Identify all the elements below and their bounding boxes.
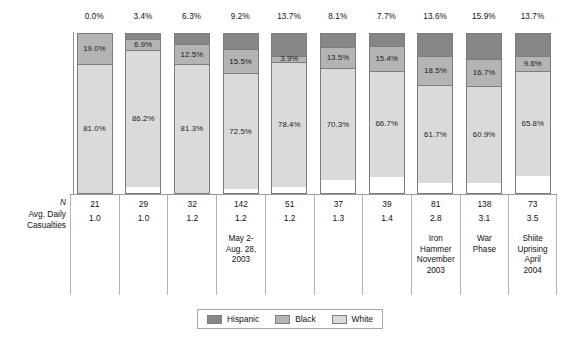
table-column: 1383.1WarPhase <box>460 195 509 295</box>
segment-value-label: 65.8% <box>521 120 544 128</box>
table-cell-n: 142 <box>217 195 265 210</box>
segment-value-label: 81.3% <box>181 125 204 133</box>
stacked-bar[interactable]: 18.5%61.7% <box>417 33 453 194</box>
table-cell-avg-daily-casualties: 2.8 <box>412 210 460 224</box>
legend-label: Hispanic <box>227 314 259 324</box>
legend-label: White <box>352 314 373 324</box>
segment-hispanic <box>467 34 501 59</box>
hispanic-top-label: 3.4% <box>119 12 168 21</box>
bar-column: 9.2%15.5%72.5% <box>216 10 265 195</box>
segment-black: 6.9% <box>126 39 160 50</box>
bar-column: 3.4%6.9%86.2% <box>119 10 168 195</box>
stacked-bar[interactable]: 9.6%65.8% <box>515 33 551 194</box>
segment-black: 18.5% <box>418 56 452 85</box>
table-columns: 211.0291.0321.21421.2May 2-Aug. 28,20035… <box>70 194 557 294</box>
table-cell-annotation: May 2-Aug. 28,2003 <box>217 224 265 266</box>
legend-label: Black <box>295 314 315 324</box>
table-cell-avg-daily-casualties: 3.5 <box>509 210 556 224</box>
annotation-line: Hammer <box>414 245 458 256</box>
segment-white: 61.7% <box>418 85 452 183</box>
annotation-line: Aug. 28, <box>219 245 263 256</box>
table-cell-n: 81 <box>412 195 460 210</box>
legend-item-white[interactable]: White <box>332 314 373 324</box>
hispanic-top-label: 9.2% <box>216 12 265 21</box>
hispanic-top-label: 8.1% <box>314 12 363 21</box>
legend-swatch-icon <box>332 315 347 324</box>
stacked-bar[interactable]: 3.9%78.4% <box>271 33 307 194</box>
table-column: 371.3 <box>314 195 363 295</box>
stacked-bar[interactable]: 15.4%66.7% <box>369 33 405 194</box>
table-column: 733.5ShiiteUprisingApril2004 <box>508 195 557 295</box>
table-column: 511.2 <box>265 195 314 295</box>
bar-column: 15.9%16.7%60.9% <box>460 10 509 195</box>
segment-value-label: 15.4% <box>375 55 398 63</box>
table-column: 291.0 <box>119 195 168 295</box>
hispanic-top-label: 0.0% <box>70 12 119 21</box>
hispanic-top-label: 13.6% <box>411 12 460 21</box>
table-cell-annotation: ShiiteUprisingApril2004 <box>509 224 556 276</box>
bar-column: 13.7%9.6%65.8% <box>508 10 557 195</box>
segment-hispanic <box>370 34 404 46</box>
segment-value-label: 66.7% <box>375 120 398 128</box>
table-cell-avg-daily-casualties: 1.4 <box>363 210 411 224</box>
table-column: 391.4 <box>362 195 411 295</box>
annotation-line: War <box>463 234 507 245</box>
table-cell-avg-daily-casualties: 1.0 <box>71 210 119 224</box>
segment-white: 60.9% <box>467 86 501 183</box>
segment-value-label: 81.0% <box>83 125 106 133</box>
segment-value-label: 60.9% <box>473 131 496 139</box>
annotation-line: 2003 <box>219 255 263 266</box>
segment-black: 12.5% <box>175 44 209 64</box>
data-table: N Avg. Daily Casualties 211.0291.0321.21… <box>0 194 557 294</box>
bar-column: 8.1%13.5%70.3% <box>314 10 363 195</box>
plot-area: 0.0%19.0%81.0%3.4%6.9%86.2%6.3%12.5%81.3… <box>70 10 557 195</box>
stacked-bar[interactable]: 13.5%70.3% <box>320 33 356 194</box>
segment-value-label: 9.6% <box>524 60 542 68</box>
hispanic-top-label: 15.9% <box>460 12 509 21</box>
annotation-line: May 2- <box>219 234 263 245</box>
table-cell-n: 73 <box>509 195 556 210</box>
stacked-bar[interactable]: 15.5%72.5% <box>223 33 259 194</box>
hispanic-top-label: 13.7% <box>265 12 314 21</box>
segment-white: 65.8% <box>516 71 550 176</box>
table-cell-avg-daily-casualties: 1.0 <box>120 210 168 224</box>
table-column: 812.8IronHammerNovember2003 <box>411 195 460 295</box>
table-row-labels: N Avg. Daily Casualties <box>0 194 66 232</box>
annotation-line: Iron <box>414 234 458 245</box>
table-cell-annotation: IronHammerNovember2003 <box>412 224 460 276</box>
segment-black: 15.4% <box>370 46 404 70</box>
row-label-avg-line2: Casualties <box>0 220 66 232</box>
annotation-line: 2003 <box>414 266 458 277</box>
segment-value-label: 13.5% <box>327 54 350 62</box>
segment-black: 13.5% <box>321 47 355 68</box>
legend-swatch-icon <box>275 315 290 324</box>
segment-white: 86.2% <box>126 50 160 187</box>
hispanic-top-label: 6.3% <box>167 12 216 21</box>
legend-item-hispanic[interactable]: Hispanic <box>207 314 259 324</box>
annotation-line: November <box>414 255 458 266</box>
annotation-line: Uprising <box>511 245 554 256</box>
table-cell-avg-daily-casualties: 1.3 <box>315 210 363 224</box>
row-label-avg-line1: Avg. Daily <box>0 209 66 221</box>
table-column: 1421.2May 2-Aug. 28,2003 <box>216 195 265 295</box>
row-label-n: N <box>0 194 66 209</box>
stacked-bar[interactable]: 19.0%81.0% <box>77 33 113 194</box>
segment-white: 70.3% <box>321 68 355 180</box>
segment-value-label: 70.3% <box>327 121 350 129</box>
table-column: 211.0 <box>70 195 119 295</box>
table-cell-n: 39 <box>363 195 411 210</box>
table-cell-avg-daily-casualties: 1.2 <box>168 210 216 224</box>
segment-value-label: 86.2% <box>132 115 155 123</box>
table-cell-n: 37 <box>315 195 363 210</box>
stacked-bar[interactable]: 16.7%60.9% <box>466 33 502 194</box>
bar-column: 6.3%12.5%81.3% <box>167 10 216 195</box>
segment-white: 66.7% <box>370 71 404 177</box>
stacked-bar[interactable]: 12.5%81.3% <box>174 33 210 194</box>
hispanic-top-label: 13.7% <box>508 12 557 21</box>
bar-column: 7.7%15.4%66.7% <box>362 10 411 195</box>
legend-item-black[interactable]: Black <box>275 314 315 324</box>
segment-value-label: 78.4% <box>278 121 301 129</box>
segment-black: 15.5% <box>224 49 258 74</box>
segment-white: 72.5% <box>224 73 258 188</box>
stacked-bar[interactable]: 6.9%86.2% <box>125 33 161 194</box>
